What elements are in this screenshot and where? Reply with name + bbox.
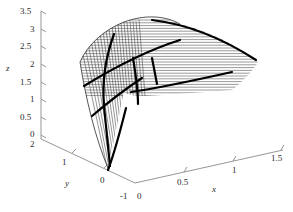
y-tick-1: 1 bbox=[62, 158, 67, 167]
z-tick-1.5: 1.5 bbox=[20, 78, 31, 87]
highlight-curve-front-edge bbox=[131, 72, 232, 92]
z-tick-3.5: 3.5 bbox=[20, 7, 31, 16]
highlight-curve-crest bbox=[152, 20, 256, 60]
x-tick-1: 1 bbox=[232, 166, 237, 175]
z-axis-ticks bbox=[41, 11, 46, 138]
x-tick-0.5: 0.5 bbox=[177, 178, 188, 187]
plot-canvas bbox=[0, 0, 293, 212]
x-axis-label: x bbox=[212, 185, 216, 194]
z-axis-label: z bbox=[6, 64, 10, 73]
y-axis-label: y bbox=[65, 179, 69, 188]
x-tick-0: 0 bbox=[137, 192, 142, 201]
z-tick-0.5: 0.5 bbox=[20, 113, 31, 122]
z-tick-0: 0 bbox=[30, 130, 35, 139]
x-tick-1.5: 1.5 bbox=[271, 154, 282, 163]
x-axis-line bbox=[135, 150, 283, 183]
y-axis-ticks bbox=[72, 149, 108, 168]
surface-plot-figure: z 3.5 3 2.5 2 1.5 1 0.5 0 y 2 1 0 -1 x 0… bbox=[0, 0, 293, 212]
y-axis-line bbox=[41, 139, 135, 183]
z-tick-2.5: 2.5 bbox=[20, 42, 31, 51]
z-tick-3: 3 bbox=[30, 25, 35, 34]
y-tick-2: 2 bbox=[30, 140, 35, 149]
highlight-curve-diagonal-b bbox=[92, 78, 142, 116]
z-tick-2: 2 bbox=[30, 60, 35, 69]
y-tick-minus-1: -1 bbox=[120, 192, 128, 201]
z-tick-1: 1 bbox=[30, 95, 35, 104]
y-tick-0: 0 bbox=[100, 176, 105, 185]
